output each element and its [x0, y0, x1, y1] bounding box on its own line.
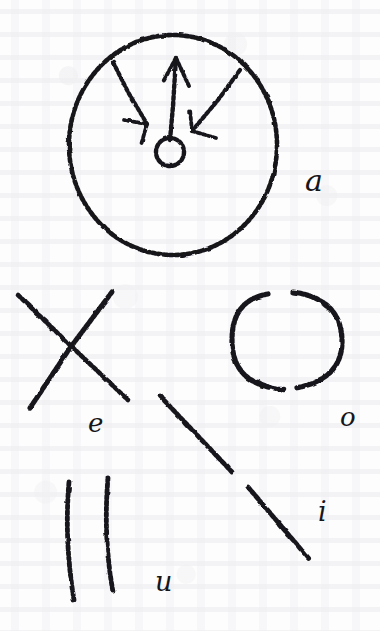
figure-e-group — [18, 292, 128, 408]
figure-a-outer-circle — [69, 35, 277, 255]
figure-o-arc-right — [293, 292, 342, 388]
figure-o-arc-left — [232, 294, 268, 387]
label-i: i — [318, 498, 327, 525]
figure-e-stroke-up-right — [30, 292, 112, 408]
figure-u-stroke-left — [67, 482, 74, 600]
figure-o-group — [232, 292, 342, 389]
figure-i-stroke-upper — [160, 396, 232, 472]
label-e: e — [88, 410, 103, 436]
label-a: a — [305, 166, 323, 196]
label-u: u — [155, 568, 172, 595]
figure-u-group — [67, 478, 113, 600]
figure-a-group — [69, 35, 277, 255]
arrow-upper-right — [190, 70, 240, 138]
label-o: o — [340, 404, 356, 430]
arrow-upper-left — [113, 62, 147, 145]
arrow-up — [163, 58, 189, 140]
figure-u-stroke-right — [106, 478, 113, 592]
ink-drawing-layer — [0, 0, 380, 631]
figure-o-arc-bottom — [258, 382, 284, 389]
figure-i-stroke-lower — [248, 487, 310, 560]
sketch-page: a e o i u — [0, 0, 380, 631]
figure-i-group — [160, 396, 310, 560]
